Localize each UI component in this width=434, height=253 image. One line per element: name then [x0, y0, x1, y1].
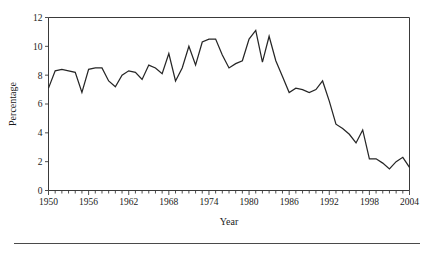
y-tick-label-8: 8 — [38, 71, 43, 81]
chart-figure: 024681012 195019561962196819741980198619… — [0, 0, 434, 253]
plot-frame — [49, 18, 410, 191]
percentage-series-line — [49, 30, 410, 168]
x-tick-label-1986: 1986 — [280, 197, 299, 207]
x-axis-ticks — [49, 191, 410, 196]
y-axis-ticks — [45, 18, 49, 191]
y-tick-label-4: 4 — [38, 128, 43, 138]
y-axis-title: Percentage — [7, 82, 18, 126]
x-tick-label-1992: 1992 — [320, 197, 339, 207]
x-tick-label-1998: 1998 — [360, 197, 379, 207]
x-tick-label-1956: 1956 — [79, 197, 98, 207]
y-tick-label-2: 2 — [38, 157, 43, 167]
y-axis-tick-labels: 024681012 — [33, 13, 43, 196]
y-tick-label-6: 6 — [38, 99, 43, 109]
x-tick-label-1974: 1974 — [199, 197, 218, 207]
footer-horizontal-rule — [14, 243, 420, 244]
x-tick-label-1968: 1968 — [159, 197, 178, 207]
x-tick-label-1980: 1980 — [240, 197, 259, 207]
x-tick-label-1962: 1962 — [119, 197, 138, 207]
x-axis-tick-labels: 1950195619621968197419801986199219982004 — [39, 197, 419, 207]
x-tick-label-1950: 1950 — [39, 197, 58, 207]
y-tick-label-0: 0 — [38, 186, 43, 196]
y-tick-label-10: 10 — [33, 42, 43, 52]
x-tick-label-2004: 2004 — [400, 197, 419, 207]
line-chart-canvas: 024681012 195019561962196819741980198619… — [0, 0, 434, 253]
x-axis-title: Year — [220, 216, 239, 227]
y-tick-label-12: 12 — [33, 13, 43, 23]
